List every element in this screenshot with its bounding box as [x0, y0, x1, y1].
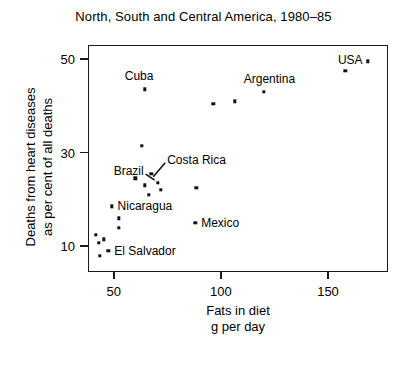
y-tick-label-10: 10 — [61, 239, 75, 254]
x-tick-mark-100 — [220, 272, 222, 279]
y-tick-label-30: 30 — [61, 145, 75, 160]
x-tick-mark-50 — [113, 272, 115, 279]
y-axis-title-line1: Deaths from heart diseases — [22, 52, 39, 282]
y-tick-mark-50 — [80, 58, 88, 60]
y-axis-title-line2: as per cent of all deaths — [39, 52, 56, 282]
chart-title: North, South and Central America, 1980–8… — [0, 9, 407, 24]
x-axis-title-line2: g per day — [211, 319, 265, 334]
y-tick-mark-30 — [80, 152, 88, 154]
y-tick-label-50: 50 — [61, 52, 75, 67]
plot-area-frame — [88, 45, 388, 272]
x-axis-title-line1: Fats in diet — [206, 303, 270, 318]
y-tick-mark-10 — [80, 245, 88, 247]
x-tick-mark-150 — [327, 272, 329, 279]
x-tick-label-50: 50 — [106, 284, 120, 299]
y-axis-title: Deaths from heart diseases as per cent o… — [22, 52, 56, 282]
x-axis-title: Fats in diet g per day — [88, 303, 388, 335]
x-tick-label-100: 100 — [210, 284, 232, 299]
x-tick-label-150: 150 — [317, 284, 339, 299]
scatter-plot-figure: North, South and Central America, 1980–8… — [0, 0, 407, 365]
